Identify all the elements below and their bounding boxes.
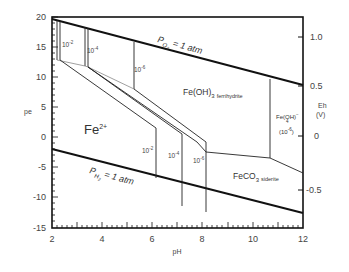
pe-axis-title: pe bbox=[24, 108, 32, 116]
ph-tick-12: 12 bbox=[298, 234, 308, 244]
conc-label-bottom-2: 10-4 bbox=[168, 151, 180, 159]
pe-tick-10: 10 bbox=[36, 72, 46, 82]
eh-tick-minus0-5: -0.5 bbox=[306, 185, 322, 195]
eh-tick-0: 0 bbox=[314, 131, 319, 141]
bottom-axis-labels: 2 4 6 8 10 12 bbox=[49, 234, 308, 244]
ph-tick-4: 4 bbox=[99, 234, 104, 244]
ferrihydrite-region-label: Fe(OH)3ferrihydrite bbox=[183, 87, 243, 99]
ph-tick-8: 8 bbox=[199, 234, 204, 244]
pe-tick-minus10: -10 bbox=[33, 192, 46, 202]
ph-tick-6: 6 bbox=[149, 234, 154, 244]
ferrate-concentration: (10-6) bbox=[279, 127, 294, 135]
left-axis-labels: 20 15 10 5 0 -5 -10 -15 bbox=[33, 12, 46, 233]
eh-axis-title: Eh bbox=[318, 102, 327, 109]
conc-label-top-3: 10-6 bbox=[134, 65, 146, 73]
pe-tick-20: 20 bbox=[36, 12, 46, 22]
o2-boundary-label: PO2 = 1 atm bbox=[155, 34, 204, 60]
pe-tick-minus5: -5 bbox=[38, 162, 46, 172]
fe2-region-label: Fe2+ bbox=[84, 122, 107, 137]
siderite-region-label: FeCO3siderite bbox=[233, 171, 279, 183]
eh-tick-0-5: 0.5 bbox=[310, 81, 323, 91]
pe-tick-minus15: -15 bbox=[33, 223, 46, 233]
pe-tick-15: 15 bbox=[36, 42, 46, 52]
bottom-axis-ticks bbox=[57, 222, 298, 228]
conc-label-bottom-1: 10-2 bbox=[142, 146, 154, 154]
pe-ph-diagram: 20 15 10 5 0 -5 -10 -15 pe 2 4 6 8 10 12… bbox=[0, 0, 349, 272]
pe-tick-5: 5 bbox=[41, 102, 46, 112]
ph-axis-title: pH bbox=[173, 248, 182, 256]
eh-tick-1: 1.0 bbox=[310, 32, 323, 42]
conc-label-top-1: 10-2 bbox=[62, 40, 74, 48]
ph-tick-2: 2 bbox=[49, 234, 54, 244]
conc-label-top-2: 10-4 bbox=[87, 46, 99, 54]
pe-tick-0: 0 bbox=[41, 132, 46, 142]
conc-label-bottom-3: 10-6 bbox=[193, 156, 205, 164]
ph-tick-10: 10 bbox=[248, 234, 258, 244]
eh-axis-unit: (V) bbox=[316, 111, 325, 119]
